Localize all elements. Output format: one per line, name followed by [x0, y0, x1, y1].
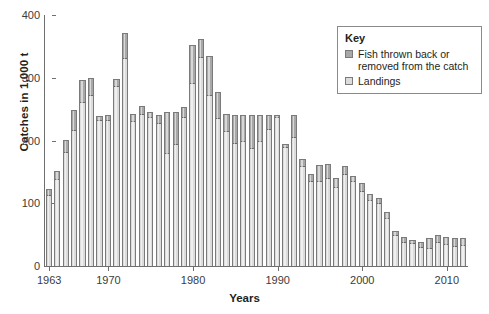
bar-1985 — [232, 115, 238, 266]
legend-title: Key — [345, 32, 475, 45]
bar-segment-discards-2004 — [393, 232, 397, 236]
bar-segment-discards-1974 — [140, 107, 144, 115]
x-axis-tickmark-1970 — [108, 266, 109, 271]
bar-segment-discards-1989 — [267, 116, 271, 130]
bar-1963 — [46, 189, 52, 266]
x-axis-tickmark-2000 — [362, 266, 363, 271]
bar-2002 — [376, 198, 382, 266]
x-axis-tick-1970: 1970 — [96, 274, 120, 286]
bar-1969 — [96, 116, 102, 266]
bar-1977 — [164, 112, 170, 266]
bar-2003 — [384, 212, 390, 266]
bar-2011 — [452, 238, 458, 266]
bar-segment-discards-1980 — [190, 46, 194, 84]
bar-1976 — [156, 115, 162, 266]
bar-1982 — [206, 56, 212, 266]
bar-1973 — [130, 114, 136, 266]
bar-1990 — [274, 115, 280, 266]
bar-2010 — [443, 237, 449, 266]
bar-segment-discards-1986 — [241, 116, 245, 142]
bar-segment-discards-1966 — [72, 111, 76, 131]
bar-segment-discards-1971 — [114, 80, 118, 87]
bar-2012 — [460, 238, 466, 266]
bar-1967 — [79, 80, 85, 266]
bar-1986 — [240, 115, 246, 266]
bar-segment-discards-2008 — [427, 239, 431, 249]
bar-segment-discards-1993 — [300, 160, 304, 167]
bar-segment-discards-1998 — [343, 167, 347, 175]
y-axis-tick-group: 0100200300400 — [12, 0, 40, 314]
bar-segment-discards-2011 — [453, 239, 457, 247]
bar-1995 — [316, 165, 322, 266]
bar-segment-discards-1990 — [275, 116, 279, 118]
bar-segment-discards-1969 — [97, 117, 101, 121]
bar-segment-discards-1975 — [148, 113, 152, 118]
bar-1993 — [299, 159, 305, 266]
bar-segment-discards-1977 — [165, 113, 169, 154]
x-axis-tickmark-2010 — [447, 266, 448, 271]
legend-item-landings: Landings — [345, 75, 475, 88]
y-axis-tick-300: 300 — [12, 72, 40, 84]
bar-segment-discards-1985 — [233, 116, 237, 144]
bar-1999 — [350, 176, 356, 266]
bar-segment-discards-2010 — [444, 238, 448, 246]
legend-label-landings: Landings — [358, 75, 475, 88]
bar-segment-discards-1967 — [80, 81, 84, 103]
bar-segment-discards-1981 — [199, 40, 203, 58]
bar-segment-discards-1984 — [224, 115, 228, 133]
bar-2007 — [418, 242, 424, 266]
y-axis-tick-100: 100 — [12, 197, 40, 209]
bar-segment-discards-1991 — [283, 145, 287, 148]
x-axis-tick-2010: 2010 — [435, 274, 459, 286]
bar-segment-discards-1983 — [216, 93, 220, 119]
bar-2009 — [435, 235, 441, 266]
bar-segment-discards-2000 — [360, 184, 364, 192]
x-axis-tickmark-1980 — [193, 266, 194, 271]
bar-1968 — [88, 78, 94, 266]
bar-segment-discards-1976 — [157, 116, 161, 124]
bar-1989 — [266, 115, 272, 266]
y-axis-tick-400: 400 — [12, 9, 40, 21]
discard-swatch-icon — [345, 50, 353, 58]
x-axis-label: Years — [0, 292, 489, 304]
bar-1996 — [325, 164, 331, 266]
bar-segment-discards-2001 — [368, 195, 372, 201]
bar-1997 — [333, 178, 339, 266]
bar-segment-discards-1968 — [89, 79, 93, 96]
bar-1974 — [139, 106, 145, 266]
bar-segment-discards-1972 — [123, 34, 127, 58]
bar-1980 — [189, 45, 195, 266]
bar-segment-discards-1987 — [250, 116, 254, 149]
bar-segment-discards-1973 — [131, 115, 135, 122]
bar-segment-discards-1965 — [64, 141, 68, 154]
bar-segment-discards-1982 — [207, 57, 211, 96]
x-axis-tick-2000: 2000 — [350, 274, 374, 286]
bar-1983 — [215, 92, 221, 266]
bar-2006 — [409, 240, 415, 266]
bar-1964 — [54, 171, 60, 266]
bar-1966 — [71, 110, 77, 266]
bar-1975 — [147, 112, 153, 266]
landings-swatch-icon — [345, 77, 353, 85]
chart-figure: Catches in 1,000 t 0100200300400 1963197… — [0, 0, 489, 314]
bar-1972 — [122, 33, 128, 266]
bar-segment-discards-1978 — [174, 113, 178, 145]
bar-segment-discards-1999 — [351, 177, 355, 182]
y-axis-tick-0: 0 — [12, 260, 40, 272]
bar-segment-discards-2002 — [377, 199, 381, 205]
bar-1965 — [63, 140, 69, 266]
bar-1994 — [308, 174, 314, 266]
bar-2008 — [426, 238, 432, 266]
bar-2000 — [359, 183, 365, 266]
bar-1987 — [249, 115, 255, 266]
bar-segment-discards-2006 — [410, 241, 414, 244]
x-axis-tick-1963: 1963 — [37, 274, 61, 286]
chart-legend: Key Fish thrown back or removed from the… — [337, 26, 482, 94]
bar-segment-discards-1996 — [326, 165, 330, 179]
x-axis-tick-1990: 1990 — [265, 274, 289, 286]
bar-segment-discards-1970 — [106, 116, 110, 120]
bar-segment-discards-2012 — [461, 239, 465, 246]
legend-label-discards: Fish thrown back or removed from the cat… — [358, 48, 475, 73]
bar-segment-discards-2003 — [385, 213, 389, 219]
bar-1979 — [181, 107, 187, 266]
